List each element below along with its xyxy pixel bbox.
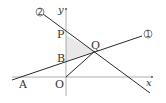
line-1-label: 1	[146, 30, 151, 39]
point-A-label: A	[18, 78, 28, 91]
point-Q-label: Q	[91, 39, 100, 52]
y-axis-arrow-icon	[65, 8, 67, 10]
coordinate-diagram: y x O A B P Q 2 1	[0, 0, 166, 103]
point-P-label: P	[57, 28, 65, 41]
x-axis-label: x	[146, 77, 152, 88]
line-2-label: 2	[38, 8, 43, 17]
point-B-label: B	[57, 52, 65, 65]
origin-label: O	[55, 78, 64, 91]
y-axis-label: y	[57, 4, 64, 15]
